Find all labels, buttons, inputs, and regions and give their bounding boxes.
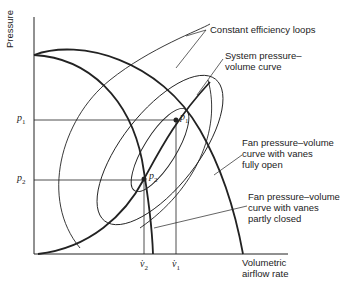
label-fan-open-line1: Fan pressure–volume bbox=[242, 137, 334, 148]
efficiency-loop-outer bbox=[59, 24, 210, 248]
fan-curve-partly-closed bbox=[34, 55, 153, 254]
label-fan-closed-line1: Fan pressure–volume bbox=[248, 191, 340, 202]
x-axis-title-line1: Volumetric bbox=[242, 257, 286, 268]
tick-p1: p1 bbox=[17, 112, 26, 126]
label-fan-open-line2: curve with vanes bbox=[242, 148, 313, 159]
label-fan-closed-line2: curve with vanes bbox=[248, 202, 319, 213]
y-axis-title: Pressure bbox=[4, 10, 15, 48]
label-fan-closed-line3: partly closed bbox=[248, 213, 301, 224]
x-axis-title-line2: airflow rate bbox=[242, 268, 288, 279]
label-fan-open-line3: fully open bbox=[242, 159, 283, 170]
point-label-p2: p2 bbox=[149, 170, 158, 184]
tick-v1: v̇1 bbox=[172, 258, 180, 272]
efficiency-loops bbox=[59, 24, 246, 248]
operating-point-p2 bbox=[142, 177, 147, 182]
reference-lines bbox=[34, 120, 176, 254]
tick-p2: p2 bbox=[17, 172, 26, 186]
tick-v2: v̇2 bbox=[140, 258, 148, 272]
label-system-line1: System pressure– bbox=[225, 50, 302, 61]
point-label-p1: p1 bbox=[180, 111, 189, 125]
label-system-line2: volume curve bbox=[225, 61, 282, 72]
operating-point-p1 bbox=[174, 118, 179, 123]
label-efficiency-loops: Constant efficiency loops bbox=[210, 24, 315, 35]
